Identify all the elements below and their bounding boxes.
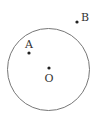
point-a-dot — [27, 51, 30, 54]
point-o-dot — [47, 66, 50, 69]
point-b-label: B — [81, 11, 89, 24]
point-b: B — [75, 11, 89, 24]
point-b-dot — [75, 20, 78, 23]
geometry-diagram: O A B — [0, 0, 94, 116]
point-o-label: O — [45, 72, 54, 85]
point-a: A — [24, 38, 34, 55]
point-a-label: A — [24, 38, 34, 51]
point-o: O — [45, 66, 54, 85]
